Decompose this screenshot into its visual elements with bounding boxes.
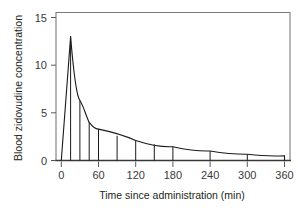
y-axis-tick-labels: 0 5 10 15 [35,12,47,167]
y-tick-label-15: 15 [35,12,47,24]
y-axis-ticks [51,18,56,161]
plot-frame [56,13,290,161]
concentration-curve [61,37,284,161]
x-tick-label-240: 240 [201,169,219,181]
x-axis-title: Time since administration (min) [99,189,244,201]
x-tick-label-60: 60 [92,169,104,181]
x-tick-label-360: 360 [275,169,293,181]
x-tick-label-300: 300 [238,169,256,181]
trapezoid-dividers [71,37,285,161]
chart-figure: 0 5 10 15 0 60 120 180 240 300 360 [0,0,298,211]
x-tick-label-0: 0 [58,169,64,181]
y-tick-label-0: 0 [41,155,47,167]
y-tick-label-10: 10 [35,59,47,71]
x-axis-ticks [61,162,284,168]
y-tick-label-5: 5 [41,107,47,119]
x-tick-label-180: 180 [164,169,182,181]
y-axis-title: Blood zidovudine concentration [12,15,24,161]
chart-plot-area: 0 5 10 15 0 60 120 180 240 300 360 [0,0,298,211]
x-axis-tick-labels: 0 60 120 180 240 300 360 [58,169,293,181]
x-tick-label-120: 120 [127,169,145,181]
